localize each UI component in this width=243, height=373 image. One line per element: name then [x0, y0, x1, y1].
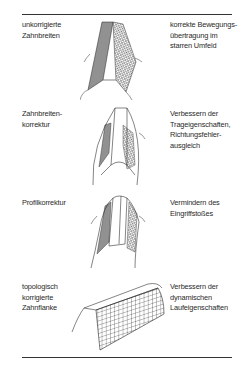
crowned-tooth-flank-figure: [85, 105, 150, 190]
profile-corrected-tooth-flank-figure: [85, 192, 150, 272]
bottom-rule: [22, 357, 232, 358]
row-1-left-label: unkorrigierte Zahnbreiten: [22, 20, 80, 41]
uncorrected-tooth-flank-figure: [80, 18, 150, 100]
top-rule: [22, 14, 232, 15]
row-3-right-label: Vermindern des Eingriffstoßes: [170, 198, 240, 219]
topologically-corrected-tooth-flank-figure: [68, 280, 168, 352]
row-4-right-label: Verbessern der dynamischen Laufeigenscha…: [170, 282, 240, 314]
row-2-left-label: Zahnbreiten- korrektur: [22, 109, 80, 130]
row-3-left-label: Profilkorrektur: [22, 198, 80, 209]
row-2-right-label: Verbessern der Trageigenschaften, Richtu…: [170, 109, 240, 151]
row-1-right-label: korrekte Bewegungs- übertragung im starr…: [170, 20, 240, 52]
